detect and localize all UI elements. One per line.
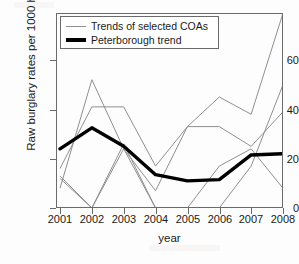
x-tick-label-2001: 2001 [43, 214, 77, 225]
burglary-rates-chart-figure: Raw burglary rates per 1000 houses 0 20 … [0, 0, 299, 264]
chart-legend: Trends of selected COAs Peterborough tre… [60, 16, 219, 49]
x-axis-label: year [56, 232, 283, 244]
legend-entry-peterborough: Peterborough trend [65, 33, 214, 47]
x-tick-label-2002: 2002 [75, 214, 109, 225]
legend-thin-line-icon [65, 26, 87, 27]
x-tick-label-2005: 2005 [171, 214, 205, 225]
x-tick-label-2003: 2003 [107, 214, 141, 225]
legend-thick-line-icon [65, 38, 87, 42]
series-line-coa-4 [60, 144, 283, 208]
legend-entry-coas: Trends of selected COAs [65, 19, 214, 33]
series-line-coa-1 [60, 80, 283, 191]
x-tick-label-2007: 2007 [234, 214, 268, 225]
legend-label-peterborough: Peterborough trend [87, 34, 181, 46]
x-tick-label-2006: 2006 [203, 214, 237, 225]
legend-label-coas: Trends of selected COAs [87, 20, 208, 32]
x-tick-label-2008: 2008 [266, 214, 299, 225]
x-tick-label-2004: 2004 [139, 214, 173, 225]
series-line-peterborough-trend [60, 128, 283, 181]
